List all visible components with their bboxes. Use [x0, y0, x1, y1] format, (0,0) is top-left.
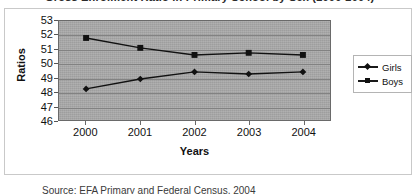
plot-area: [58, 20, 331, 121]
data-point-boys-2004: [300, 52, 306, 58]
legend-label-girls: Girls: [379, 62, 402, 73]
chart-title-clipped: Gross Enrolment Ratio in Primary School …: [0, 0, 417, 6]
data-point-girls-2002: [191, 69, 198, 76]
x-axis-tick-mark: [304, 121, 305, 125]
y-axis-tick-47: 47: [29, 102, 53, 112]
x-axis-tick-2004: 2004: [284, 126, 324, 138]
y-axis-tick-49: 49: [29, 73, 53, 83]
data-point-girls-2003: [245, 71, 252, 78]
x-axis-tick-mark: [195, 121, 196, 125]
x-axis-tick-mark: [249, 121, 250, 125]
square-marker-icon: [357, 75, 379, 87]
y-axis-tick-52: 52: [29, 29, 53, 39]
x-axis-tick-2002: 2002: [175, 126, 215, 138]
x-axis-tick-mark: [140, 121, 141, 125]
data-point-girls-2000: [83, 86, 90, 93]
data-point-girls-2001: [137, 76, 144, 83]
y-axis-title: Ratios: [15, 35, 27, 95]
legend-item-girls[interactable]: Girls: [357, 60, 408, 74]
legend-label-boys: Boys: [379, 76, 403, 87]
data-point-boys-2001: [137, 45, 143, 51]
x-axis-tick-2000: 2000: [65, 126, 105, 138]
chart-title: Gross Enrolment Ratio in Primary School …: [45, 0, 375, 3]
data-point-boys-2003: [246, 50, 252, 56]
x-axis-tick-2001: 2001: [120, 126, 160, 138]
series-overlay: [59, 21, 330, 120]
data-point-boys-2000: [83, 35, 89, 41]
x-axis-tick-2003: 2003: [229, 126, 269, 138]
x-axis-tick-mark: [85, 121, 86, 125]
chart-legend: Girls Boys: [353, 55, 412, 93]
x-axis-title: Years: [58, 145, 331, 157]
legend-item-boys[interactable]: Boys: [357, 74, 408, 88]
figure-caption: Source: EFA Primary and Federal Census, …: [42, 186, 255, 194]
chart-frame: Ratios 5352515049484746 2000200120022003…: [4, 8, 412, 175]
diamond-marker-icon: [357, 61, 379, 73]
data-point-girls-2004: [300, 69, 307, 76]
y-axis-tick-48: 48: [29, 87, 53, 97]
y-axis-tick-51: 51: [29, 44, 53, 54]
y-axis-tick-50: 50: [29, 58, 53, 68]
y-axis-tick-53: 53: [29, 15, 53, 25]
figure-caption-clipped: Source: EFA Primary and Federal Census, …: [0, 186, 417, 194]
data-point-boys-2002: [192, 52, 198, 58]
y-axis-tick-mark: [54, 121, 58, 122]
y-axis-tick-46: 46: [29, 116, 53, 126]
